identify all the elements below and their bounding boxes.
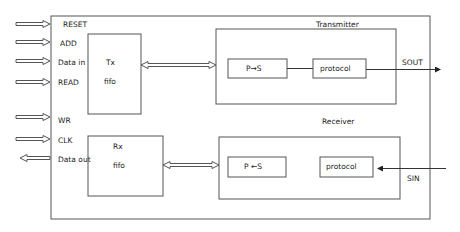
- data-out-arrow-icon: [20, 155, 50, 162]
- rx-fifo-label-2: fifo: [113, 161, 125, 170]
- clk-arrow-icon: [16, 136, 50, 143]
- transmitter-block: [216, 29, 396, 104]
- rx-protocol-label: protocol: [326, 162, 357, 171]
- tx-fifo-block: [88, 34, 141, 114]
- wr-arrow-icon: [16, 114, 50, 121]
- tx-protocol-label: protocol: [320, 64, 351, 73]
- uart-outer-block: [51, 16, 430, 219]
- tx-fifo-label-2: fifo: [104, 77, 116, 86]
- signal-label-data-out: Data out: [58, 155, 91, 164]
- s-to-p-label: P ←S: [244, 162, 262, 171]
- sout-label: SOUT: [402, 58, 423, 67]
- signal-label-clk: CLK: [58, 136, 73, 145]
- signal-label-add: ADD: [60, 39, 77, 48]
- input-arrows: [16, 21, 50, 162]
- block-diagram: RESET ADD Data in READ WR CLK Data out T…: [0, 0, 460, 232]
- rx-bidirectional-arrow-icon: [163, 162, 219, 169]
- p-to-s-label: P→S: [246, 64, 262, 73]
- read-arrow-icon: [16, 79, 50, 86]
- transmitter-label: Transmitter: [315, 20, 360, 29]
- signal-label-read: READ: [58, 78, 79, 87]
- reset-arrow-icon: [16, 21, 50, 28]
- receiver-label: Receiver: [322, 117, 355, 126]
- rx-fifo-block: [88, 136, 163, 196]
- sin-label: SIN: [407, 174, 420, 183]
- add-arrow-icon: [16, 39, 50, 46]
- signal-label-wr: WR: [58, 116, 71, 125]
- rx-fifo-label-1: Rx: [113, 142, 123, 151]
- data-in-arrow-icon: [16, 58, 50, 65]
- tx-bidirectional-arrow-icon: [141, 62, 216, 69]
- tx-fifo-label-1: Tx: [105, 58, 116, 67]
- signal-label-reset: RESET: [63, 20, 87, 29]
- signal-label-data-in: Data in: [58, 58, 85, 67]
